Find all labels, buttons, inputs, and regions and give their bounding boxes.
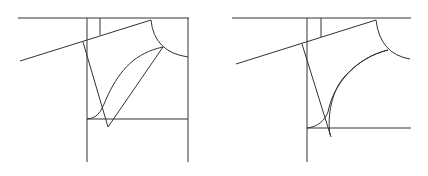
- sleeve-construction-line: [302, 44, 331, 137]
- armhole-curve: [87, 47, 163, 119]
- diagram-canvas: [0, 0, 428, 176]
- neck-arc: [151, 20, 188, 57]
- armhole-curve-outer: [329, 50, 388, 135]
- pattern-draft-right: [232, 18, 411, 162]
- armhole-curve-inner: [307, 50, 388, 128]
- sleeve-construction-lines: [83, 42, 163, 127]
- pattern-draft-left: [18, 18, 189, 162]
- shoulder-slope-line: [20, 20, 151, 61]
- neck-arc: [376, 20, 410, 59]
